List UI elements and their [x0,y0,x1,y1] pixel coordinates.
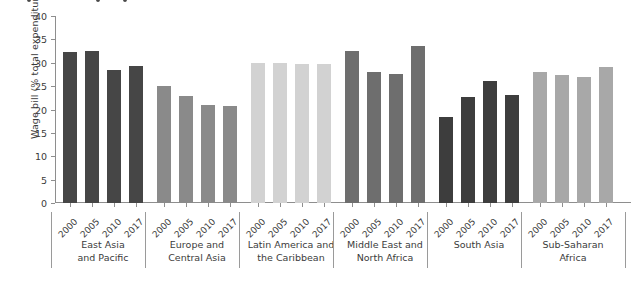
x-tick-mark [584,203,585,207]
x-tick-mark [230,203,231,207]
bar [273,63,287,203]
bar-chart: Wage bill (% total expenditure) 05101520… [0,0,637,284]
y-tick-label: 25 [21,81,47,92]
group-label: Sub-Saharan Africa [513,239,633,264]
bar [461,97,475,203]
cropped-title-artifact [0,0,637,3]
x-tick-mark [324,203,325,207]
x-tick-mark [92,203,93,207]
y-tick-label: 35 [21,34,47,45]
y-tick-mark [51,203,55,204]
y-tick-mark [51,110,55,111]
x-tick-mark [114,203,115,207]
x-tick-mark [258,203,259,207]
y-tick-label: 30 [21,57,47,68]
plot-area: 0510152025303540 [55,16,631,203]
bar [411,46,425,203]
x-tick-mark [490,203,491,207]
bar [63,52,77,203]
y-tick-mark [51,39,55,40]
x-tick-mark [396,203,397,207]
bar [85,51,99,203]
bar [389,74,403,203]
x-tick-mark [208,203,209,207]
y-tick-label: 15 [21,127,47,138]
x-tick-mark [186,203,187,207]
bar [317,64,331,203]
x-tick-mark [302,203,303,207]
x-tick-mark [374,203,375,207]
x-tick-mark [418,203,419,207]
y-tick-mark [51,86,55,87]
bar [367,72,381,203]
x-tick-mark [446,203,447,207]
y-tick-mark [51,180,55,181]
x-tick-mark [540,203,541,207]
x-tick-mark [512,203,513,207]
x-tick-mark [70,203,71,207]
bar [179,96,193,203]
bar [201,105,215,203]
x-tick-mark [562,203,563,207]
y-tick-label: 10 [21,151,47,162]
bar [577,77,591,203]
y-axis-line [55,16,56,203]
y-tick-label: 40 [21,11,47,22]
x-tick-mark [136,203,137,207]
bar [295,64,309,203]
bar [157,86,171,203]
y-tick-label: 0 [21,198,47,209]
bar [483,81,497,203]
y-tick-mark [51,63,55,64]
bar [251,63,265,203]
bar [345,51,359,203]
bar [129,66,143,203]
bar [599,67,613,203]
bar [223,106,237,203]
x-tick-mark [280,203,281,207]
x-tick-mark [352,203,353,207]
bar [505,95,519,203]
bar [555,75,569,203]
y-tick-mark [51,156,55,157]
bar [439,117,453,203]
y-tick-mark [51,133,55,134]
bar [533,72,547,203]
bar [107,70,121,203]
y-tick-label: 5 [21,174,47,185]
x-tick-mark [606,203,607,207]
x-tick-mark [468,203,469,207]
y-tick-mark [51,16,55,17]
y-tick-label: 20 [21,104,47,115]
x-tick-mark [164,203,165,207]
